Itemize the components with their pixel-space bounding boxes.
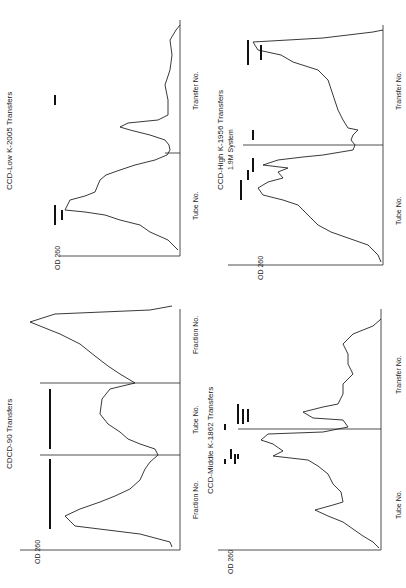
ylabel: OD 260 (54, 246, 61, 270)
ylabel: OD 260 (257, 256, 264, 280)
chart-subtitle: 1.9M System (227, 129, 235, 170)
chart-title: CDCD-90 Transfers (5, 399, 14, 469)
chart-ccd-middle-k: CCD-Middle K-1862 Transfers OD 260 Tube … (203, 294, 406, 588)
chart-title: CCD-Low K-2005 Transfers (5, 92, 14, 190)
chart-svg: CCD-Middle K-1862 Transfers OD 260 Tube … (203, 294, 406, 588)
xlabel-transfer: Transfer No. (192, 71, 199, 110)
ylabel: OD 260 (34, 540, 41, 564)
chart-title: CCD-Middle K-1862 Transfers (206, 387, 215, 494)
chart-svg: CDCD-90 Transfers OD 260 Fraction No. Tu… (0, 294, 203, 588)
chart-ccd-high-k: CCD-High K-1956 Transfers 1.9M System OD… (203, 0, 406, 294)
xlabel-left: Fraction No. (192, 481, 199, 519)
xlabel-transfer: Transfer No. (395, 71, 402, 110)
xlabel-tube: Tube No. (192, 191, 199, 220)
xlabel-tube: Tube No. (192, 405, 199, 434)
chart-cdcd-90: CDCD-90 Transfers OD 260 Fraction No. Tu… (0, 294, 203, 588)
chart-ccd-low-k: CCD-Low K-2005 Transfers OD 260 Tube No.… (0, 0, 203, 294)
chart-title: CCD-High K-1956 Transfers (216, 90, 225, 190)
xlabel-tube: Tube No. (395, 490, 402, 519)
chart-svg: CCD-High K-1956 Transfers 1.9M System OD… (203, 0, 406, 294)
chart-svg: CCD-Low K-2005 Transfers OD 260 Tube No.… (0, 0, 203, 294)
xlabel-right: Fraction No. (192, 316, 199, 354)
ylabel: OD 260 (227, 550, 234, 574)
xlabel-tube: Tube No. (395, 196, 402, 225)
xlabel-transfer: Transfer No. (395, 355, 402, 394)
